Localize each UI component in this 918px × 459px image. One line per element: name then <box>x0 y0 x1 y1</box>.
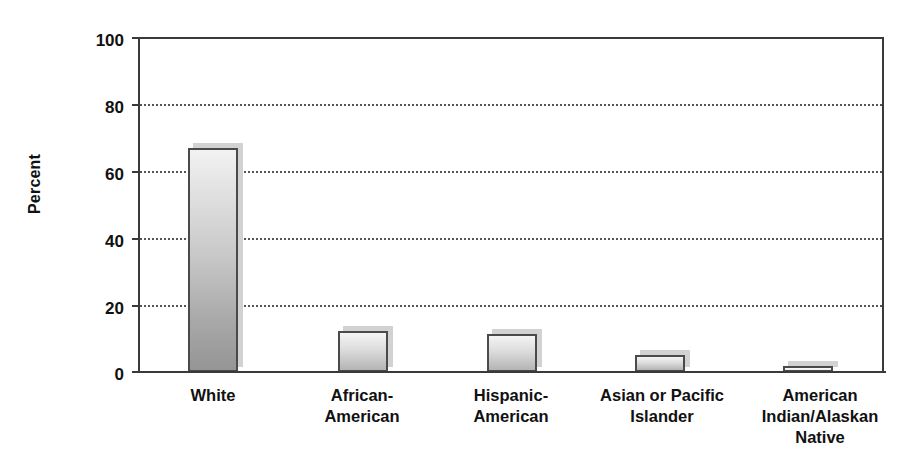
bar-chart: Percent 100 80 60 40 20 0 <box>0 0 918 459</box>
bar-fill <box>338 331 388 372</box>
y-tick-label-40: 40 <box>66 233 124 250</box>
bar-hispanic-american[interactable] <box>487 334 537 372</box>
bar-fill <box>487 334 537 372</box>
y-tick-label-0: 0 <box>66 366 124 383</box>
y-axis-title: Percent <box>26 164 44 214</box>
gridline-80 <box>140 104 882 106</box>
x-axis-baseline <box>138 371 886 373</box>
x-label-american-indian-alaskan-native: American Indian/Alaskan Native <box>735 385 905 448</box>
bar-fill <box>635 355 685 372</box>
bar-african-american[interactable] <box>338 331 388 372</box>
x-label-african-american: African- American <box>301 385 423 427</box>
x-label-hispanic-american: Hispanic- American <box>450 385 572 427</box>
bar-asian-or-pacific-islander[interactable] <box>635 355 685 372</box>
y-axis-tick-labels: 100 80 60 40 20 0 <box>62 0 124 459</box>
x-label-asian-or-pacific-islander: Asian or Pacific Islander <box>586 385 738 427</box>
y-tick-label-60: 60 <box>66 166 124 183</box>
y-tick-label-20: 20 <box>66 300 124 317</box>
y-tick-label-100: 100 <box>66 32 124 49</box>
gridline-60 <box>140 171 882 173</box>
bar-white[interactable] <box>188 148 238 372</box>
y-tick-label-80: 80 <box>66 99 124 116</box>
plot-area <box>138 37 884 372</box>
gridline-20 <box>140 305 882 307</box>
bar-fill <box>188 148 238 372</box>
gridline-40 <box>140 238 882 240</box>
x-label-white: White <box>152 385 274 406</box>
